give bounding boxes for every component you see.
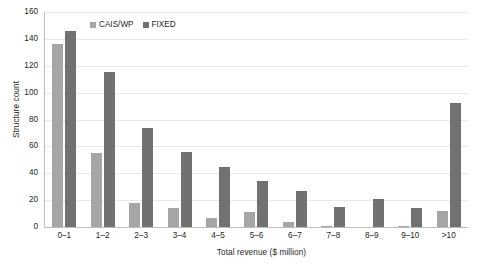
y-axis-tick-label: 100 [4,89,38,97]
bar-group: 8–9 [353,12,391,227]
y-axis-tick-label: 80 [4,116,38,124]
x-axis-tick-label: 5–6 [237,231,275,240]
bar [334,207,345,227]
bar-group: 7–8 [314,12,352,227]
x-axis-tick-label: 4–5 [199,231,237,240]
y-axis-tick-label: 140 [4,35,38,43]
bar [206,218,217,227]
x-axis-tick-label: 2–3 [122,231,160,240]
gridline [44,227,468,228]
bar [181,152,192,227]
x-axis-title: Total revenue ($ million) [0,248,479,257]
bar [257,181,268,227]
x-axis-tick-label: 8–9 [353,231,391,240]
y-axis-tick-label: 60 [4,142,38,150]
bar-group: 5–6 [237,12,275,227]
bar [321,226,332,227]
bar [91,153,102,227]
bar-groups: 0–11–22–33–44–55–66–77–88–99–10>10 [45,12,468,227]
y-axis-tick-label: 20 [4,196,38,204]
x-axis-tick-label: 9–10 [391,231,429,240]
bar [219,167,230,227]
y-axis-tick-label: 120 [4,62,38,70]
x-axis-tick-label: 3–4 [160,231,198,240]
x-axis-tick-label: 7–8 [314,231,352,240]
bar-group: 6–7 [276,12,314,227]
bar [142,128,153,227]
bar-group: 1–2 [83,12,121,227]
bar [437,211,448,227]
bar-chart: Structure count Total revenue ($ million… [0,0,479,267]
y-axis-tick-label: 160 [4,8,38,16]
bar [129,203,140,227]
y-axis-tick-label: 0 [4,223,38,231]
bar [104,72,115,227]
bar [168,208,179,227]
bar [244,212,255,227]
plot-area: 020406080100120140160 0–11–22–33–44–55–6… [44,12,468,227]
bar [65,31,76,227]
bar [411,208,422,227]
bar [52,44,63,227]
x-axis-tick-label: >10 [430,231,468,240]
bar [373,199,384,227]
bar [398,226,409,227]
bar-group: 3–4 [160,12,198,227]
bar [450,103,461,227]
bar-group: 9–10 [391,12,429,227]
x-axis-tick-label: 6–7 [276,231,314,240]
bar [283,222,294,227]
bar [296,191,307,227]
bar-group: >10 [430,12,468,227]
bar-group: 0–1 [45,12,83,227]
x-axis-tick-label: 1–2 [83,231,121,240]
x-axis-tick-label: 0–1 [45,231,83,240]
y-axis-tick-label: 40 [4,169,38,177]
bar-group: 2–3 [122,12,160,227]
bar-group: 4–5 [199,12,237,227]
